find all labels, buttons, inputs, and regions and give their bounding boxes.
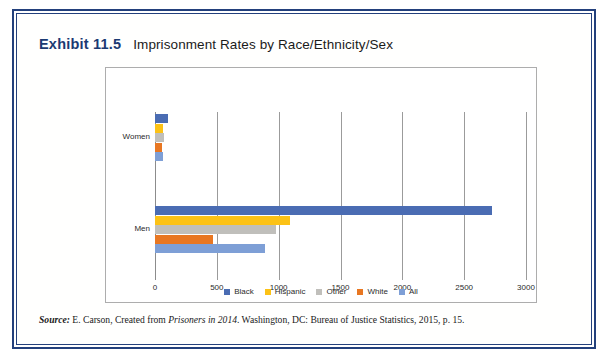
bar-women-hispanic	[155, 124, 163, 133]
legend-label-white: White	[367, 287, 387, 296]
chart-legend: BlackHispanicOtherWhiteAll	[106, 287, 536, 296]
exhibit-title: Imprisonment Rates by Race/Ethnicity/Sex	[133, 37, 393, 52]
legend-swatch-black-icon	[224, 289, 230, 295]
legend-swatch-other-icon	[316, 289, 322, 295]
legend-label-hispanic: Hispanic	[275, 287, 306, 296]
chart-plot-area: 050010001500200025003000WomenMen	[106, 68, 536, 302]
legend-swatch-white-icon	[357, 289, 363, 295]
bar-men-white	[155, 235, 213, 244]
bar-women-other	[155, 133, 164, 142]
gridline-3000	[526, 112, 527, 280]
gridline-1500	[341, 112, 342, 280]
bar-women-white	[155, 143, 162, 152]
legend-item-all[interactable]: All	[399, 287, 418, 296]
legend-swatch-hispanic-icon	[265, 289, 271, 295]
gridline-500	[217, 112, 218, 280]
legend-item-black[interactable]: Black	[224, 287, 254, 296]
source-citation: Source: E. Carson, Created from Prisoner…	[39, 314, 573, 325]
category-label-women: Women	[106, 132, 150, 141]
exhibit-header: Exhibit 11.5 Imprisonment Rates by Race/…	[39, 36, 393, 52]
bar-men-black	[155, 206, 492, 215]
legend-item-hispanic[interactable]: Hispanic	[265, 287, 306, 296]
exhibit-inner-border: Exhibit 11.5 Imprisonment Rates by Race/…	[16, 13, 592, 345]
bar-men-other	[155, 225, 276, 234]
legend-swatch-all-icon	[399, 289, 405, 295]
source-label: Source:	[39, 314, 70, 325]
chart-plot-box: 050010001500200025003000WomenMen BlackHi…	[105, 67, 537, 303]
gridline-2500	[464, 112, 465, 280]
category-label-men: Men	[106, 224, 150, 233]
source-text-part2: . Washington, DC: Bureau of Justice Stat…	[237, 314, 464, 325]
exhibit-outer-border: Exhibit 11.5 Imprisonment Rates by Race/…	[12, 9, 596, 349]
gridline-2000	[402, 112, 403, 280]
legend-item-other[interactable]: Other	[316, 287, 346, 296]
legend-label-all: All	[409, 287, 418, 296]
source-text-part1: E. Carson, Created from	[70, 314, 168, 325]
bar-women-black	[155, 114, 168, 123]
source-title-italic: Prisoners in 2014	[168, 314, 237, 325]
bar-men-hispanic	[155, 216, 290, 225]
legend-label-other: Other	[326, 287, 346, 296]
exhibit-number: Exhibit 11.5	[39, 36, 121, 52]
gridline-1000	[279, 112, 280, 280]
legend-label-black: Black	[234, 287, 254, 296]
legend-item-white[interactable]: White	[357, 287, 387, 296]
bar-men-all	[155, 244, 265, 253]
bar-women-all	[155, 152, 163, 161]
